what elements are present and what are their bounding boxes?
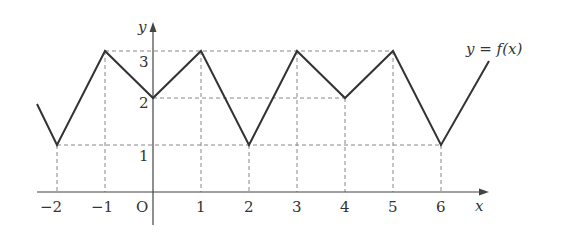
y-tick-label: 2: [139, 94, 149, 112]
y-tick-label: 1: [139, 147, 149, 165]
x-tick-label: 1: [196, 198, 206, 216]
origin-label: O: [136, 198, 148, 216]
x-tick-label: 3: [292, 198, 302, 216]
x-tick-label: 4: [340, 198, 350, 216]
x-tick-label: 6: [436, 198, 446, 216]
y-axis-arrow-icon: [150, 22, 157, 32]
curve-label: y = f(x): [465, 40, 522, 58]
x-axis-arrow-icon: [479, 189, 489, 196]
x-tick-label: 5: [388, 198, 398, 216]
x-tick-label: −1: [91, 198, 113, 216]
y-tick-label: 3: [139, 53, 149, 71]
x-axis-label: x: [475, 197, 484, 215]
function-graph: y x O −2 −1 1 2 3 4 5 6 3 2 1 y = f(x): [0, 0, 564, 233]
axes: [37, 28, 484, 225]
y-axis-label: y: [137, 18, 147, 36]
x-tick-label: −2: [40, 198, 62, 216]
guide-lines: [57, 51, 441, 192]
x-tick-label: 2: [244, 198, 254, 216]
